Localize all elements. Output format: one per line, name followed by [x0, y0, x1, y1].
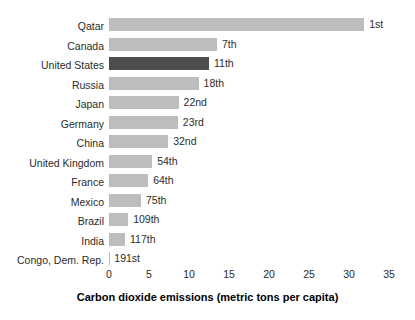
rank-annotation: 11th — [214, 56, 234, 70]
bar-row: China32nd — [0, 133, 415, 153]
rank-annotation: 54th — [157, 154, 177, 168]
category-label: Canada — [0, 39, 104, 53]
bar-track — [109, 135, 409, 148]
bar — [109, 57, 209, 70]
carbon-emissions-bar-chart: Qatar1stCanada7thUnited States11thRussia… — [0, 0, 415, 320]
bar-track — [109, 116, 409, 129]
bar — [109, 233, 125, 246]
bar-row: Brazil109th — [0, 211, 415, 231]
bar-track — [109, 77, 409, 90]
rank-annotation: 75th — [146, 193, 166, 207]
rank-annotation: 32nd — [173, 134, 196, 148]
bar — [109, 213, 128, 226]
x-tick-label: 25 — [303, 268, 315, 280]
bar-track — [109, 57, 409, 70]
bar-track — [109, 155, 409, 168]
category-label: India — [0, 234, 104, 248]
rank-annotation: 117th — [130, 232, 156, 246]
bar-row: Qatar1st — [0, 16, 415, 36]
category-label: China — [0, 136, 104, 150]
bar-row: Mexico75th — [0, 192, 415, 212]
category-label: Japan — [0, 97, 104, 111]
bar-row: Japan22nd — [0, 94, 415, 114]
bar — [109, 194, 141, 207]
bar-row: India117th — [0, 231, 415, 251]
bar — [109, 38, 217, 51]
bar-row: Germany23rd — [0, 114, 415, 134]
bar-row: Congo, Dem. Rep.191st — [0, 250, 415, 270]
x-tick-label: 35 — [383, 268, 395, 280]
x-axis-title: Carbon dioxide emissions (metric tons pe… — [0, 291, 415, 303]
rank-annotation: 7th — [222, 37, 237, 51]
category-label: Brazil — [0, 214, 104, 228]
bar — [109, 18, 364, 31]
rank-annotation: 64th — [153, 173, 173, 187]
rank-annotation: 22nd — [184, 95, 207, 109]
category-label: Congo, Dem. Rep. — [0, 253, 104, 267]
bar-track — [109, 96, 409, 109]
bar-row: United States11th — [0, 55, 415, 75]
bar-track — [109, 252, 409, 265]
x-tick-label: 5 — [146, 268, 152, 280]
x-tick-label: 15 — [223, 268, 235, 280]
rank-annotation: 191st — [114, 251, 140, 265]
bar-row: Canada7th — [0, 36, 415, 56]
category-label: Russia — [0, 78, 104, 92]
category-label: Mexico — [0, 195, 104, 209]
category-label: United States — [0, 58, 104, 72]
category-label: Qatar — [0, 19, 104, 33]
bar — [109, 77, 199, 90]
bar — [109, 116, 178, 129]
bar-row: United Kingdom54th — [0, 153, 415, 173]
x-axis: 05101520253035 — [109, 268, 389, 286]
bar-row: Russia18th — [0, 75, 415, 95]
category-label: United Kingdom — [0, 156, 104, 170]
category-label: Germany — [0, 117, 104, 131]
x-tick-label: 20 — [263, 268, 275, 280]
bar — [109, 174, 148, 187]
bar-row: France64th — [0, 172, 415, 192]
bar — [109, 155, 152, 168]
rank-annotation: 18th — [204, 76, 224, 90]
x-tick-label: 0 — [106, 268, 112, 280]
rank-annotation: 1st — [369, 17, 383, 31]
bar-track — [109, 38, 409, 51]
bar — [109, 135, 168, 148]
x-tick-label: 30 — [343, 268, 355, 280]
bar-track — [109, 18, 409, 31]
x-tick-label: 10 — [183, 268, 195, 280]
category-label: France — [0, 175, 104, 189]
bar — [109, 96, 179, 109]
rank-annotation: 109th — [133, 212, 159, 226]
rank-annotation: 23rd — [183, 115, 204, 129]
